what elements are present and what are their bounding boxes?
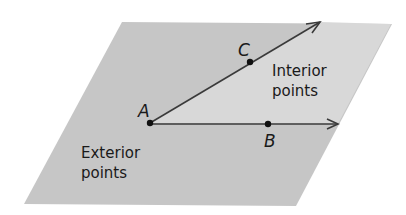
interior-label-line1: Interior: [272, 62, 328, 80]
label-a: A: [137, 101, 150, 121]
angle-diagram: A C B Interior points Exterior points: [0, 0, 406, 215]
point-b: [265, 121, 271, 127]
exterior-label-line1: Exterior: [81, 144, 141, 162]
interior-label-line2: points: [272, 82, 318, 100]
label-b: B: [264, 131, 276, 151]
label-c: C: [238, 40, 250, 60]
exterior-label-line2: points: [81, 164, 127, 182]
